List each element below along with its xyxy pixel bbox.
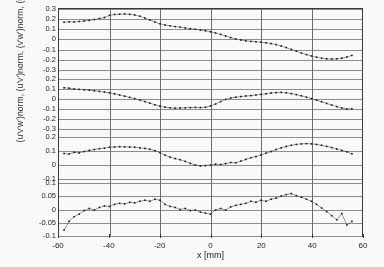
data-point — [341, 107, 343, 109]
data-point — [240, 39, 242, 41]
data-point — [230, 162, 232, 164]
y-tick-label: 0.3 — [46, 5, 56, 13]
chart-panel-3: 0.20.10-0.1 — [58, 134, 363, 182]
x-axis: -60-40-200204060 — [58, 238, 363, 250]
data-point — [275, 197, 277, 199]
data-point — [331, 58, 333, 60]
data-point — [124, 146, 126, 148]
data-point — [250, 200, 252, 202]
trace-line — [64, 194, 352, 231]
data-point — [174, 26, 176, 28]
data-point — [104, 91, 106, 93]
data-point — [114, 204, 116, 206]
data-point — [78, 89, 80, 91]
data-point — [68, 153, 70, 155]
data-point — [169, 25, 171, 27]
data-point — [230, 97, 232, 99]
data-point — [296, 195, 298, 197]
data-point — [250, 157, 252, 159]
data-point — [321, 207, 323, 209]
data-point — [190, 163, 192, 165]
data-series-2 — [59, 74, 362, 134]
data-point — [230, 206, 232, 208]
data-point — [285, 92, 287, 94]
data-point — [200, 107, 202, 109]
trace-line — [64, 88, 352, 109]
data-point — [291, 193, 293, 195]
x-tick-mark — [58, 234, 59, 238]
data-point — [326, 146, 328, 148]
x-axis-label: x [mm] — [58, 250, 363, 260]
data-point — [164, 204, 166, 206]
data-point — [285, 146, 287, 148]
data-point — [245, 95, 247, 97]
data-point — [94, 149, 96, 151]
data-point — [99, 207, 101, 209]
y-tick-label: 0.1 — [46, 147, 56, 155]
data-point — [351, 108, 353, 110]
data-point — [351, 153, 353, 155]
data-point — [275, 92, 277, 94]
data-point — [301, 196, 303, 198]
data-point — [351, 55, 353, 57]
y-tick-label: 0 — [52, 95, 56, 103]
trace-line — [64, 14, 352, 59]
data-point — [215, 32, 217, 34]
data-point — [68, 87, 70, 89]
x-tick-label: 20 — [257, 241, 266, 250]
data-point — [265, 42, 267, 44]
data-point — [205, 165, 207, 167]
data-point — [68, 221, 70, 223]
data-series-1 — [59, 9, 362, 74]
data-point — [336, 148, 338, 150]
data-point — [341, 213, 343, 215]
data-point — [275, 44, 277, 46]
data-point — [205, 212, 207, 214]
data-point — [270, 43, 272, 45]
data-point — [174, 207, 176, 209]
data-series-4 — [59, 182, 362, 236]
data-point — [83, 89, 85, 91]
data-point — [341, 57, 343, 59]
data-point — [220, 101, 222, 103]
data-point — [159, 199, 161, 201]
data-point — [124, 13, 126, 15]
figure-canvas: (u'v'w')norm, (u'v')norm, (v'w')norm, (u… — [0, 0, 384, 267]
data-point — [311, 98, 313, 100]
x-tick-label: 60 — [359, 241, 368, 250]
data-point — [265, 93, 267, 95]
data-point — [94, 19, 96, 21]
data-point — [260, 41, 262, 43]
chart-panel-1: 0.30.20.10-0.1-0.2-0.3 — [58, 8, 363, 74]
data-point — [275, 149, 277, 151]
data-point — [164, 154, 166, 156]
y-tick-label: 0.1 — [46, 85, 56, 93]
data-point — [296, 50, 298, 52]
data-point — [235, 162, 237, 164]
x-tick-mark — [312, 234, 313, 238]
data-point — [260, 154, 262, 156]
data-point — [346, 151, 348, 153]
data-point — [154, 150, 156, 152]
data-point — [205, 106, 207, 108]
data-point — [265, 200, 267, 202]
data-point — [326, 58, 328, 60]
y-tick-label: 0 — [52, 36, 56, 44]
trace-line — [64, 144, 352, 166]
data-point — [250, 41, 252, 43]
data-point — [291, 144, 293, 146]
data-point — [311, 200, 313, 202]
y-tick-label: -0.2 — [43, 56, 56, 64]
data-point — [83, 20, 85, 22]
data-point — [270, 151, 272, 153]
data-point — [336, 106, 338, 108]
data-point — [89, 89, 91, 91]
data-point — [63, 21, 65, 23]
data-point — [174, 107, 176, 109]
data-point — [291, 49, 293, 51]
data-point — [270, 198, 272, 200]
data-point — [68, 21, 70, 23]
data-point — [63, 229, 65, 231]
data-point — [78, 21, 80, 23]
data-point — [164, 106, 166, 108]
